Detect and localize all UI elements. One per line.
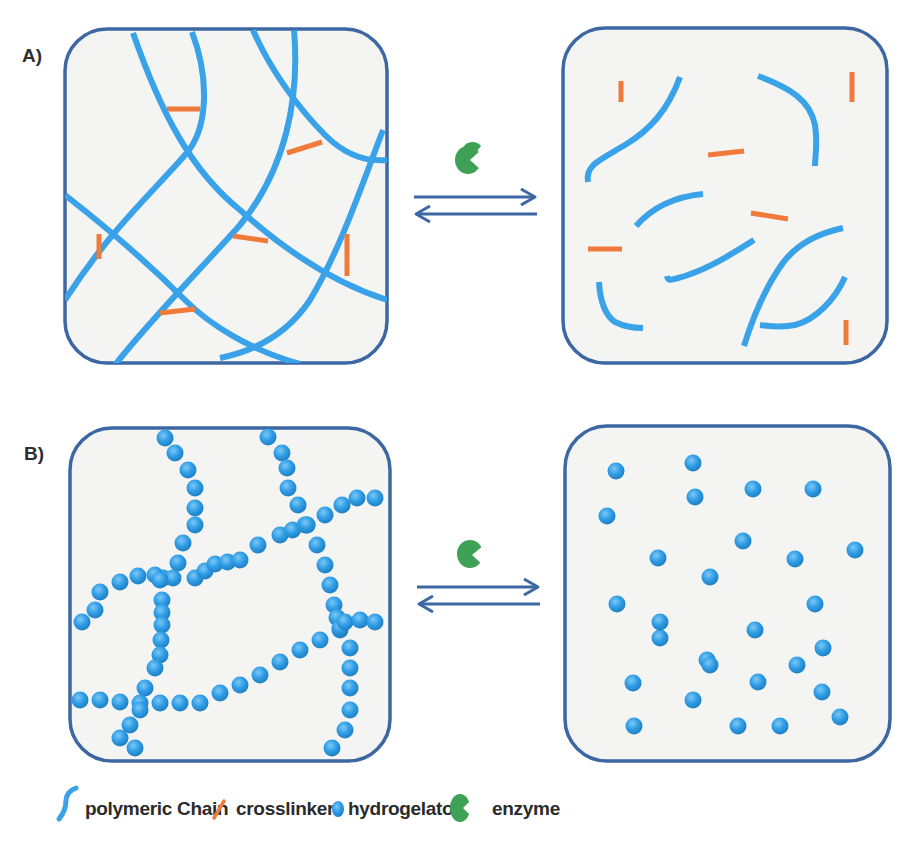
hydrogelator-bead — [609, 596, 626, 613]
hydrogelator-bead — [157, 430, 174, 447]
hydrogelator-bead — [342, 640, 359, 657]
hydrogelator-bead — [599, 508, 616, 525]
hydrogelator-bead — [652, 614, 669, 631]
hydrogelator-bead — [274, 445, 291, 462]
hydrogelator-bead — [750, 674, 767, 691]
hydrogelator-bead — [152, 572, 169, 589]
hydrogelator-bead — [322, 577, 339, 594]
hydrogelator-bead — [130, 568, 147, 585]
hydrogelator-bead — [685, 455, 702, 472]
reversible-arrows-a — [414, 142, 537, 222]
hydrogelator-bead — [807, 596, 824, 613]
hydrogelator-bead — [170, 555, 187, 572]
hydrogelator-bead — [280, 480, 297, 497]
hydrogelator-bead — [805, 481, 822, 498]
hydrogelator-bead — [299, 517, 316, 534]
hydrogelator-bead — [232, 552, 249, 569]
hydrogelator-bead — [312, 632, 329, 649]
panel-a-gel-network — [65, 29, 387, 365]
hydrogelator-bead — [745, 481, 762, 498]
legend-item-polymeric-chain: polymeric Chain — [59, 788, 228, 819]
hydrogelator-bead — [250, 537, 267, 554]
hydrogelator-bead — [172, 695, 189, 712]
hydrogelator-bead — [92, 584, 109, 601]
hydrogelator-bead — [789, 657, 806, 674]
hydrogelator-bead — [112, 694, 129, 711]
hydrogelator-bead — [153, 632, 170, 649]
hydrogelator-bead — [342, 660, 359, 677]
hydrogelator-bead — [147, 660, 164, 677]
hydrogelator-bead — [702, 569, 719, 586]
reversible-arrows-b — [417, 540, 540, 612]
hydrogelator-bead — [309, 537, 326, 554]
hydrogelator-bead — [324, 740, 341, 757]
hydrogelator-icon — [332, 801, 344, 817]
hydrogelator-bead — [342, 680, 359, 697]
hydrogelator-bead — [337, 722, 354, 739]
hydrogelator-bead — [626, 718, 643, 735]
hydrogelator-bead — [772, 718, 789, 735]
hydrogelator-bead — [685, 692, 702, 709]
hydrogelator-bead — [132, 702, 149, 719]
hydrogelator-bead — [814, 684, 831, 701]
hydrogelator-bead — [342, 702, 359, 719]
hydrogelator-bead — [272, 654, 289, 671]
hydrogelator-bead — [74, 614, 91, 631]
panel-a-right-frame — [563, 28, 887, 363]
hydrogelator-bead — [279, 460, 296, 477]
legend-label: polymeric Chain — [85, 798, 228, 819]
hydrogelator-bead — [260, 429, 277, 446]
legend-label: enzyme — [492, 798, 560, 819]
hydrogelator-bead — [87, 602, 104, 619]
hydrogelator-bead — [317, 557, 334, 574]
legend-label: crosslinker — [236, 798, 335, 819]
hydrogelator-bead — [192, 695, 209, 712]
hydrogelator-bead — [702, 657, 719, 674]
hydrogelator-bead — [367, 490, 384, 507]
hydrogelator-bead — [232, 677, 249, 694]
hydrogelator-bead — [334, 497, 351, 514]
hydrogel-diagram: A) B) — [0, 0, 910, 847]
hydrogelator-bead — [152, 695, 169, 712]
hydrogelator-bead — [832, 709, 849, 726]
hydrogelator-bead — [349, 490, 366, 507]
hydrogelator-bead — [187, 480, 204, 497]
hydrogelator-bead — [652, 630, 669, 647]
hydrogelator-bead — [650, 550, 667, 567]
panel-label-b: B) — [24, 443, 44, 464]
hydrogelator-bead — [747, 622, 764, 639]
legend-item-crosslinker: crosslinker — [214, 798, 335, 819]
panel-label-a: A) — [22, 45, 42, 66]
polymeric-chain-icon — [59, 788, 76, 819]
hydrogelator-bead — [112, 574, 129, 591]
legend-label: hydrogelator — [348, 798, 461, 819]
hydrogelator-bead — [735, 533, 752, 550]
hydrogelator-bead — [625, 675, 642, 692]
panel-b-gel-fibers — [70, 428, 390, 761]
hydrogelator-bead — [687, 489, 704, 506]
hydrogelator-bead — [847, 542, 864, 559]
hydrogelator-bead — [608, 463, 625, 480]
hydrogelator-bead — [72, 692, 89, 709]
hydrogelator-bead — [187, 500, 204, 517]
hydrogelator-bead — [212, 685, 229, 702]
hydrogelator-bead — [154, 617, 171, 634]
panel-b-sol-dispersed — [565, 426, 890, 761]
legend-item-enzyme: enzyme — [450, 794, 560, 822]
hydrogelator-bead — [815, 640, 832, 657]
hydrogelator-bead — [337, 614, 354, 631]
legend-item-hydrogelator: hydrogelator — [332, 798, 461, 819]
hydrogelator-bead — [187, 517, 204, 534]
hydrogelator-bead — [112, 730, 129, 747]
hydrogelator-bead — [180, 462, 197, 479]
hydrogelator-bead — [252, 667, 269, 684]
hydrogelator-bead — [167, 445, 184, 462]
hydrogelator-bead — [730, 718, 747, 735]
hydrogelator-bead — [127, 740, 144, 757]
hydrogelator-bead — [290, 497, 307, 514]
legend: polymeric Chain crosslinker hydrogelator… — [59, 788, 560, 822]
hydrogelator-bead — [175, 535, 192, 552]
hydrogelator-bead — [787, 551, 804, 568]
hydrogelator-bead — [317, 507, 334, 524]
hydrogelator-bead — [352, 612, 369, 629]
